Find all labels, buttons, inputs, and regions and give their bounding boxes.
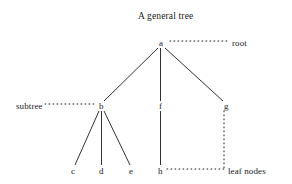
edge-b-c [75, 111, 99, 165]
tree-node-e: e [129, 167, 133, 176]
tree-node-c: c [71, 167, 75, 176]
tree-node-h: h [158, 167, 163, 176]
annotation-root: root [232, 39, 247, 48]
diagram-canvas [0, 0, 292, 184]
annotation-subtree: subtree [16, 102, 43, 111]
figure-title: A general tree [138, 12, 193, 22]
tree-node-f: f [159, 102, 162, 111]
annotation-leader-lines [45, 41, 228, 169]
tree-diagram-figure: A general tree a b f g c d e h root subt… [0, 0, 292, 184]
edge-a-g [165, 48, 223, 101]
tree-node-g: g [224, 102, 229, 111]
tree-node-b: b [99, 102, 104, 111]
edge-a-b [104, 48, 158, 101]
tree-node-d: d [99, 167, 104, 176]
edge-b-e [104, 111, 130, 165]
annotation-leaf-nodes: leaf nodes [228, 167, 266, 176]
tree-edges [75, 48, 223, 165]
tree-node-a: a [159, 39, 163, 48]
